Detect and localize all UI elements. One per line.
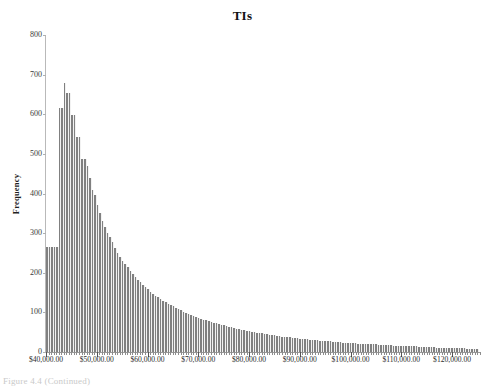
x-tick-minor bbox=[173, 352, 174, 355]
x-tick-minor bbox=[371, 352, 372, 355]
x-tick-minor bbox=[328, 352, 329, 355]
x-tick-minor bbox=[429, 352, 430, 355]
x-tick-minor bbox=[424, 352, 425, 355]
y-tick-label: 700 bbox=[30, 71, 46, 79]
x-tick-minor bbox=[117, 352, 118, 355]
x-tick-minor bbox=[318, 352, 319, 355]
y-tick-label: 300 bbox=[30, 229, 46, 237]
figure-caption: Figure 4.4 (Continued) bbox=[3, 376, 90, 386]
x-tick-minor bbox=[323, 352, 324, 355]
y-axis-title: Frequency bbox=[9, 35, 23, 352]
x-tick-minor bbox=[267, 352, 268, 355]
x-tick-minor bbox=[66, 352, 67, 355]
x-tick-minor bbox=[475, 352, 476, 355]
x-tick-minor bbox=[269, 352, 270, 355]
x-tick-label: $90,000.00 bbox=[283, 356, 317, 364]
x-tick-minor bbox=[221, 352, 222, 355]
y-tick-label: 800 bbox=[30, 31, 46, 39]
x-tick-minor bbox=[170, 352, 171, 355]
x-tick-minor bbox=[76, 352, 77, 355]
x-tick-label: $100,000.00 bbox=[332, 356, 370, 364]
x-tick-minor bbox=[219, 352, 220, 355]
histogram-bars bbox=[46, 35, 480, 352]
x-tick-minor bbox=[69, 352, 70, 355]
x-tick-label: $80,000.00 bbox=[232, 356, 266, 364]
x-tick-minor bbox=[274, 352, 275, 355]
y-tick-label: 500 bbox=[30, 150, 46, 158]
x-tick-minor bbox=[277, 352, 278, 355]
chart-title: TIs bbox=[0, 8, 485, 24]
y-tick-label: 600 bbox=[30, 110, 46, 118]
y-tick-label: 400 bbox=[30, 190, 46, 198]
x-axis-tick-labels: $40,000.00$50,000.00$60,000.00$70,000.00… bbox=[0, 356, 485, 370]
plot-area: 8007006005004003002001000 bbox=[46, 35, 480, 352]
x-tick-minor bbox=[175, 352, 176, 355]
x-tick-minor bbox=[480, 352, 481, 355]
y-tick-label: 100 bbox=[30, 308, 46, 316]
x-tick-minor bbox=[165, 352, 166, 355]
x-tick-minor bbox=[325, 352, 326, 355]
x-tick-minor bbox=[373, 352, 374, 355]
x-tick-label: $50,000.00 bbox=[80, 356, 114, 364]
x-tick-minor bbox=[224, 352, 225, 355]
x-tick-minor bbox=[178, 352, 179, 355]
x-tick-minor bbox=[125, 352, 126, 355]
x-tick-minor bbox=[472, 352, 473, 355]
x-tick-minor bbox=[229, 352, 230, 355]
x-tick-minor bbox=[376, 352, 377, 355]
x-tick-minor bbox=[122, 352, 123, 355]
x-tick-minor bbox=[74, 352, 75, 355]
x-tick-minor bbox=[427, 352, 428, 355]
x-tick-minor bbox=[64, 352, 65, 355]
x-tick-label: $120,000.00 bbox=[433, 356, 471, 364]
x-tick-label: $40,000.00 bbox=[29, 356, 63, 364]
x-tick-minor bbox=[127, 352, 128, 355]
x-tick-minor bbox=[216, 352, 217, 355]
x-tick-minor bbox=[320, 352, 321, 355]
x-tick-minor bbox=[168, 352, 169, 355]
x-tick-minor bbox=[477, 352, 478, 355]
x-tick-minor bbox=[378, 352, 379, 355]
x-tick-minor bbox=[279, 352, 280, 355]
x-tick-label: $70,000.00 bbox=[181, 356, 215, 364]
y-tick-label: 200 bbox=[30, 269, 46, 277]
x-tick-label: $60,000.00 bbox=[130, 356, 164, 364]
x-tick-minor bbox=[120, 352, 121, 355]
x-tick-label: $110,000.00 bbox=[382, 356, 420, 364]
x-tick-minor bbox=[422, 352, 423, 355]
x-tick-minor bbox=[272, 352, 273, 355]
x-tick-minor bbox=[115, 352, 116, 355]
y-axis-title-label: Frequency bbox=[11, 173, 21, 213]
figure-container: TIs Frequency 8007006005004003002001000 … bbox=[0, 0, 485, 389]
x-tick-minor bbox=[226, 352, 227, 355]
x-tick-minor bbox=[71, 352, 72, 355]
